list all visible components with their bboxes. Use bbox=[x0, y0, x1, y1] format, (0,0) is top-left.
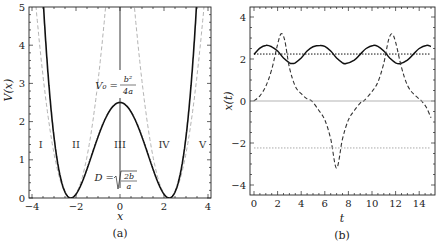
distance-num: 2b bbox=[123, 172, 134, 181]
y-tick-label: 4 bbox=[19, 40, 25, 51]
y-tick-label: 1 bbox=[19, 154, 25, 165]
region-label: V bbox=[198, 139, 207, 150]
region-label: II bbox=[72, 139, 80, 150]
barrier-lhs: V₀ = bbox=[95, 80, 118, 91]
region-label: I bbox=[39, 139, 43, 150]
distance-lhs: D = bbox=[93, 172, 114, 183]
y-tick-label: 5 bbox=[19, 2, 25, 13]
x-tick-label: 8 bbox=[345, 198, 351, 209]
y-tick-label: 3 bbox=[19, 78, 25, 89]
panel-b-curves bbox=[254, 34, 431, 169]
x-tick-label: 4 bbox=[298, 198, 304, 209]
y-tick-label: −2 bbox=[231, 138, 246, 149]
distance-den: a bbox=[127, 182, 132, 191]
region-label: IV bbox=[158, 139, 170, 150]
well-distance-annotation: D = 2b a bbox=[93, 171, 137, 191]
x-tick-label: 14 bbox=[413, 198, 426, 209]
panel-b-ylabel: x(t) bbox=[222, 91, 235, 110]
y-tick-label: 0 bbox=[19, 193, 25, 204]
x-tick-label: 12 bbox=[389, 198, 402, 209]
panel-a-ticks: −4−2024012345 bbox=[19, 2, 212, 213]
panel-b-xlabel: t bbox=[340, 212, 345, 225]
panel-a-caption: (a) bbox=[112, 227, 127, 240]
x-tick-label: 2 bbox=[161, 201, 167, 212]
y-tick-label: 4 bbox=[240, 12, 246, 23]
region-label: III bbox=[114, 139, 126, 150]
barrier-den: 4a bbox=[122, 87, 133, 96]
x-tick-label: −4 bbox=[25, 201, 40, 212]
x-tick-label: 2 bbox=[274, 198, 280, 209]
x-tick-label: 0 bbox=[251, 198, 257, 209]
barrier-num: b² bbox=[124, 75, 132, 84]
panel-b-trajectory-plot: 02468101214−4−2024 x(t) t (b) bbox=[222, 7, 435, 242]
x-tick-label: 6 bbox=[322, 198, 328, 209]
panel-a-potential-plot: −4−2024012345 V(x) x (a) V₀ = b² 4a D = … bbox=[2, 0, 211, 240]
x-tick-label: 10 bbox=[366, 198, 379, 209]
panel-a-xlabel: x bbox=[117, 210, 124, 223]
region-labels: IIIIIIIVV bbox=[39, 139, 207, 150]
y-tick-label: 2 bbox=[240, 54, 246, 65]
y-tick-label: 2 bbox=[19, 116, 25, 127]
panel-b-ticks: 02468101214−4−2024 bbox=[231, 7, 435, 209]
barrier-height-annotation: V₀ = b² 4a bbox=[95, 75, 136, 96]
x-tick-label: −2 bbox=[69, 201, 84, 212]
panel-a-ylabel: V(x) bbox=[2, 79, 15, 102]
panel-b-caption: (b) bbox=[334, 229, 350, 242]
figure: −4−2024012345 V(x) x (a) V₀ = b² 4a D = … bbox=[0, 0, 440, 244]
x-tick-label: 4 bbox=[205, 201, 211, 212]
y-tick-label: 0 bbox=[240, 96, 246, 107]
y-tick-label: −4 bbox=[231, 180, 246, 191]
